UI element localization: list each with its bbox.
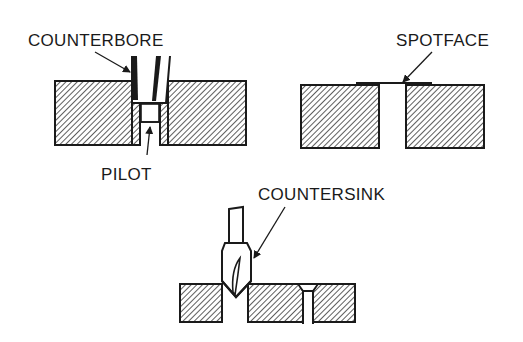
machining-diagram: COUNTERBORE PILOT SPOTFACE COUNTERSINK [0,0,523,342]
pilot-label: PILOT [101,165,152,184]
countersink-workpiece-right [313,284,355,322]
spotface-workpiece-right [406,85,484,148]
counterbore-workpiece-right [168,81,246,145]
countersink-workpiece-middle [248,284,303,322]
counterbore-leader [95,52,130,72]
counterbore-pilot-bore-right [160,103,168,145]
spotface-figure: SPOTFACE [301,31,489,148]
spotface-label: SPOTFACE [396,31,489,50]
countersink-label: COUNTERSINK [258,185,385,204]
countersink-leader [254,207,285,258]
counterbore-figure: COUNTERBORE PILOT [28,31,246,184]
counterbore-label: COUNTERBORE [28,31,164,50]
counterbore-flute-left [132,56,138,100]
spotface-workpiece-left [301,85,379,148]
counterbore-pilot-bore-left [132,103,140,145]
countersink-shank [229,207,243,243]
pilot-shape [141,104,159,122]
pilot-leader [147,127,150,155]
spotface-leader [403,52,432,82]
countersink-figure: COUNTERSINK [180,185,385,324]
countersink-workpiece-left [180,284,222,322]
counterbore-workpiece-left [55,81,132,145]
